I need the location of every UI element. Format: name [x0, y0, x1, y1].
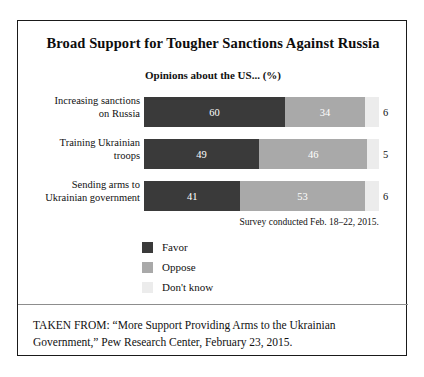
bar-segment-dont-know: 5 [367, 139, 379, 169]
bar-segment-oppose: 46 [259, 139, 367, 169]
chart-title: Broad Support for Tougher Sanctions Agai… [18, 35, 408, 52]
stacked-bar: 60 34 6 [144, 97, 379, 127]
bar-segment-dont-know: 6 [365, 181, 379, 211]
category-label-line2: troops [18, 149, 140, 162]
chart-plot-area: Increasing sanctions on Russia 60 34 6 T… [18, 93, 408, 218]
category-label-line1: Increasing sanctions [18, 94, 140, 107]
bar-segment-favor: 60 [144, 97, 285, 127]
stacked-bar: 41 53 6 [144, 181, 379, 211]
bar-segment-oppose: 34 [285, 97, 365, 127]
bar-row: Training Ukrainian troops 49 46 5 [18, 139, 408, 169]
survey-note: Survey conducted Feb. 18–22, 2015. [18, 217, 379, 227]
legend-swatch-favor [142, 242, 153, 253]
category-label: Increasing sanctions on Russia [18, 94, 140, 120]
source-line1: TAKEN FROM: “More Support Providing Arms… [33, 317, 391, 334]
bar-row: Sending arms to Ukrainian government 41 … [18, 181, 408, 211]
legend-label-favor: Favor [162, 241, 188, 253]
category-label: Training Ukrainian troops [18, 136, 140, 162]
legend-swatch-oppose [142, 262, 153, 273]
bar-value-dont-know: 5 [383, 149, 388, 160]
bar-value-oppose: 46 [308, 149, 319, 160]
legend-swatch-dont-know [142, 282, 153, 293]
bar-value-dont-know: 6 [383, 191, 388, 202]
bar-value-favor: 60 [209, 107, 220, 118]
bar-value-oppose: 53 [297, 191, 308, 202]
bar-segment-favor: 49 [144, 139, 259, 169]
legend-item-oppose: Oppose [142, 257, 342, 277]
bar-segment-dont-know: 6 [365, 97, 379, 127]
bar-value-favor: 41 [187, 191, 198, 202]
bar-value-oppose: 34 [320, 107, 331, 118]
bar-segment-oppose: 53 [240, 181, 365, 211]
category-label-line1: Training Ukrainian [18, 136, 140, 149]
legend-label-dont-know: Don't know [162, 281, 213, 293]
bar-segment-favor: 41 [144, 181, 240, 211]
source-attribution: TAKEN FROM: “More Support Providing Arms… [33, 317, 391, 351]
figure-canvas: Broad Support for Tougher Sanctions Agai… [0, 0, 424, 377]
chart-subtitle: Opinions about the US... (%) [18, 69, 408, 81]
source-line2: Government,” Pew Research Center, Februa… [33, 334, 391, 351]
bar-row: Increasing sanctions on Russia 60 34 6 [18, 97, 408, 127]
legend-item-favor: Favor [142, 237, 342, 257]
bar-value-favor: 49 [196, 149, 207, 160]
chart-legend: Favor Oppose Don't know [142, 237, 342, 297]
category-label-line2: Ukrainian government [18, 191, 140, 204]
legend-item-dont-know: Don't know [142, 277, 342, 297]
category-label: Sending arms to Ukrainian government [18, 178, 140, 204]
bar-value-dont-know: 6 [383, 107, 388, 118]
category-label-line2: on Russia [18, 107, 140, 120]
footer-divider [18, 304, 408, 305]
category-label-line1: Sending arms to [18, 178, 140, 191]
legend-label-oppose: Oppose [162, 261, 196, 273]
stacked-bar: 49 46 5 [144, 139, 379, 169]
figure-frame: Broad Support for Tougher Sanctions Agai… [17, 20, 407, 356]
